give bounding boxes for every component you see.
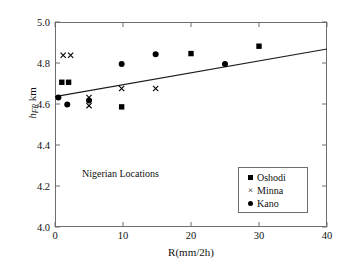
data-point-x bbox=[86, 103, 91, 108]
data-point-square bbox=[59, 80, 64, 85]
data-point-circle bbox=[55, 94, 61, 100]
data-layer bbox=[0, 0, 354, 272]
data-point-circle bbox=[119, 61, 125, 67]
data-markers bbox=[55, 43, 261, 109]
data-point-circle bbox=[86, 98, 92, 104]
data-point-square bbox=[66, 80, 71, 85]
data-point-circle bbox=[153, 51, 159, 57]
data-point-square bbox=[256, 43, 261, 48]
data-point-square bbox=[188, 51, 193, 56]
data-point-circle bbox=[222, 61, 228, 67]
data-point-x bbox=[119, 86, 124, 91]
data-point-x bbox=[61, 53, 66, 58]
data-point-circle bbox=[64, 101, 70, 107]
data-point-square bbox=[119, 104, 124, 109]
data-point-x bbox=[68, 53, 73, 58]
data-point-x bbox=[153, 86, 158, 91]
chart-figure: 5.0 4.8 4.6 4.4 4.2 4.0 0 10 20 30 40 hF… bbox=[0, 0, 354, 272]
